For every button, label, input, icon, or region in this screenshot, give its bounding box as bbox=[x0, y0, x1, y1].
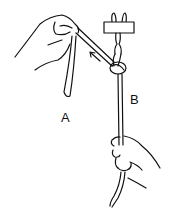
label-a: A bbox=[61, 111, 70, 124]
left-hand bbox=[15, 15, 79, 97]
label-b: B bbox=[130, 93, 139, 106]
working-rope bbox=[76, 28, 114, 66]
standing-rope bbox=[110, 33, 126, 145]
rope-tail bbox=[110, 172, 125, 207]
anchor-block bbox=[104, 13, 134, 33]
knot-illustration bbox=[0, 0, 175, 218]
